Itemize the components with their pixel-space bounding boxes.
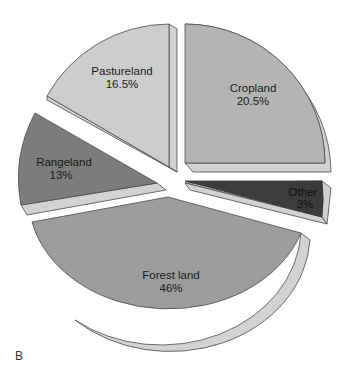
slice-rangeland-label: Rangeland [36, 156, 92, 168]
slice-pastureland-value: 16.5% [106, 78, 139, 90]
slice-cropland-value: 20.5% [237, 95, 270, 107]
slice-forest-land-value: 46% [159, 282, 182, 294]
slice-forest-land-label: Forest land [142, 269, 200, 281]
pie-chart: Cropland 20.5% Other 3% Forest land 46% … [0, 0, 351, 375]
slice-forest-land: Forest land 46% [32, 197, 310, 351]
slice-other-value: 3% [297, 198, 314, 210]
slice-cropland-label: Cropland [230, 82, 277, 94]
slice-pastureland-label: Pastureland [91, 65, 152, 77]
slice-other-label: Other [289, 186, 318, 198]
slice-cropland: Cropland 20.5% [185, 24, 331, 172]
slice-pastureland-side [169, 24, 177, 172]
panel-label: B [15, 349, 23, 363]
slice-rangeland-value: 13% [49, 169, 72, 181]
